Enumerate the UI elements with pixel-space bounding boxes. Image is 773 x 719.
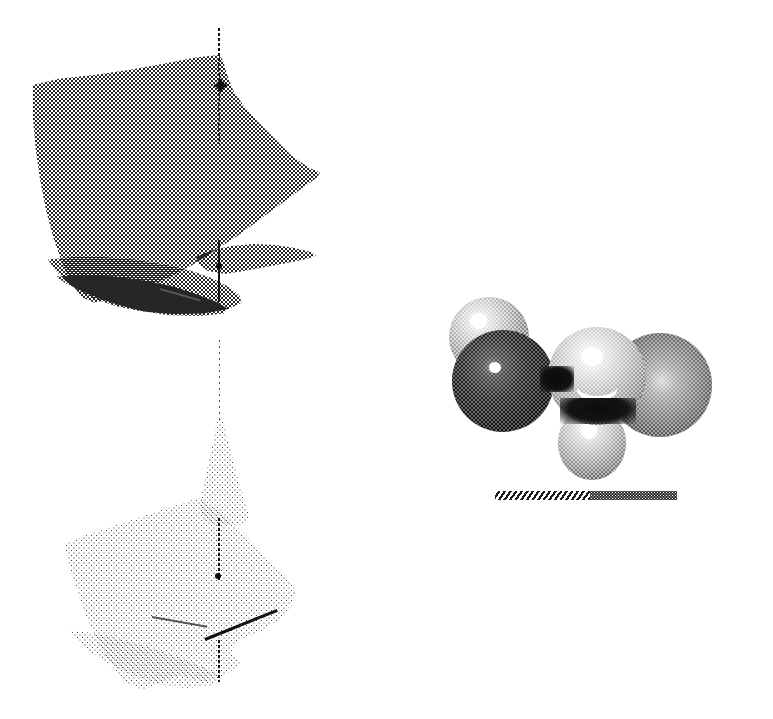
vertical-axis-upper-through [218, 88, 220, 144]
lobe-lower-left-dither [452, 330, 554, 432]
vertical-axis-middle-segment [218, 240, 220, 302]
node-point-lower [215, 573, 221, 579]
figure-canvas [0, 0, 773, 719]
scale-bar-solid-segment [590, 491, 677, 500]
lobe-lower-left-specular [489, 362, 501, 373]
vertical-axis-bottom-tail [218, 640, 220, 682]
lobe-lower-left [452, 330, 554, 432]
vertical-axis-gap-segment [219, 340, 220, 420]
scale-bar-hatched-segment [495, 491, 590, 500]
interlobe-shadow-lower [560, 398, 636, 424]
lobe-center-specular [581, 347, 603, 367]
vertical-axis-lower-segment [218, 518, 220, 580]
scale-bar [495, 491, 677, 500]
node-point-middle [216, 263, 222, 269]
interlobe-shadow-bridge [540, 366, 574, 392]
